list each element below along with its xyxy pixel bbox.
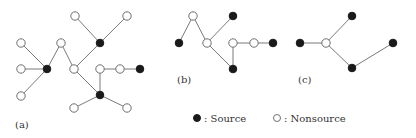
nonsource-node-icon — [322, 39, 330, 47]
nonsource-node-icon — [17, 39, 25, 47]
nonsource-node-icon — [123, 104, 131, 112]
graph-edge — [207, 43, 233, 69]
graph-edge — [207, 16, 233, 43]
panel-label-a: (a) — [15, 119, 29, 130]
graph-edge — [74, 43, 100, 69]
graph-edge — [21, 43, 47, 69]
source-node-icon — [96, 91, 104, 99]
graph-edge — [21, 69, 47, 96]
nonsource-node-icon — [250, 39, 258, 47]
graph-edge — [326, 16, 352, 43]
edge-layer — [21, 16, 393, 108]
source-node-icon — [348, 64, 356, 72]
source-node-icon — [175, 39, 183, 47]
nonsource-legend-label: : Nonsource — [284, 113, 346, 124]
panel-labels: (a) (b) (c) — [15, 74, 312, 130]
graph-edge — [352, 43, 393, 68]
nonsource-node-icon — [96, 65, 104, 73]
source-node-icon — [229, 65, 237, 73]
graph-edge — [326, 43, 352, 68]
source-legend-icon — [194, 115, 201, 122]
nonsource-node-icon — [229, 39, 237, 47]
legend: : Source : Nonsource — [194, 113, 346, 124]
source-node-icon — [269, 39, 277, 47]
nonsource-node-icon — [57, 39, 65, 47]
nonsource-node-icon — [203, 39, 211, 47]
source-node-icon — [348, 12, 356, 20]
source-node-icon — [229, 12, 237, 20]
source-node-icon — [43, 65, 51, 73]
panel-label-c: (c) — [298, 74, 312, 85]
graph-edge — [75, 16, 100, 43]
nonsource-node-icon — [17, 92, 25, 100]
panel-label-b: (b) — [177, 74, 191, 85]
source-legend-label: : Source — [204, 113, 246, 124]
node-layer — [17, 12, 397, 112]
graph-figure: (a) (b) (c) : Source : Nonsource — [0, 0, 416, 138]
graph-edge — [100, 16, 127, 43]
nonsource-node-icon — [70, 65, 78, 73]
graph-edge — [74, 69, 100, 95]
nonsource-node-icon — [17, 65, 25, 73]
nonsource-node-icon — [70, 104, 78, 112]
nonsource-node-icon — [189, 12, 197, 20]
nonsource-node-icon — [116, 65, 124, 73]
nonsource-node-icon — [123, 12, 131, 20]
nonsource-node-icon — [71, 12, 79, 20]
source-node-icon — [96, 39, 104, 47]
source-node-icon — [296, 39, 304, 47]
nonsource-legend-icon — [274, 115, 281, 122]
source-node-icon — [136, 65, 144, 73]
source-node-icon — [389, 39, 397, 47]
